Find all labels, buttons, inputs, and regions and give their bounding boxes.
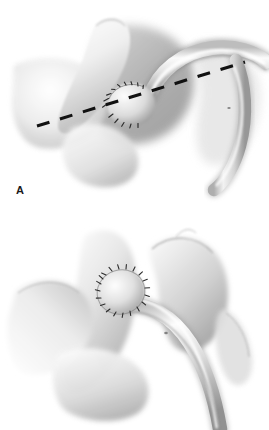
vessel-marking-a [227, 107, 230, 109]
panel-b-illustration [0, 215, 269, 430]
panel-a: A [0, 0, 269, 215]
panel-a-illustration [0, 0, 269, 215]
panel-b: B [0, 215, 269, 430]
figure-sheet: A [0, 0, 269, 430]
vessel-marking-b [164, 332, 168, 334]
panel-a-label: A [16, 185, 24, 196]
